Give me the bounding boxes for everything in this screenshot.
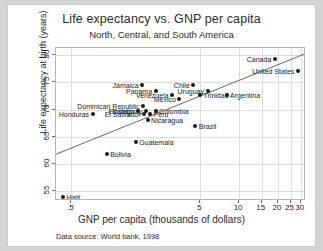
y-tick-mark bbox=[52, 54, 55, 55]
point-label: Canada bbox=[247, 55, 272, 62]
point-label: United States bbox=[252, 68, 294, 75]
plot-area: HaitiBoliviaGuatemalaHondurasNicaraguaEl… bbox=[55, 47, 305, 200]
scatter-point bbox=[273, 57, 277, 61]
x-tick-label: 30 bbox=[295, 203, 304, 212]
point-label: Dominican Republic bbox=[77, 102, 139, 109]
x-tick-label: 5 bbox=[197, 203, 201, 212]
chart-subtitle: North, Central, and South America bbox=[8, 29, 315, 40]
point-label: Guatemala bbox=[139, 139, 173, 146]
scatter-point bbox=[141, 104, 145, 108]
x-tick-label: 25 bbox=[285, 203, 294, 212]
point-label: Brazil bbox=[199, 122, 217, 129]
y-tick-mark bbox=[52, 136, 55, 137]
scatter-point bbox=[61, 195, 65, 199]
y-tick-mark bbox=[52, 190, 55, 191]
x-tick-label: 20 bbox=[273, 203, 282, 212]
x-tick-label: 10 bbox=[234, 203, 243, 212]
y-tick-label: 55 bbox=[42, 186, 51, 195]
y-tick-mark bbox=[52, 109, 55, 110]
point-label: Haiti bbox=[66, 193, 80, 200]
y-tick-mark bbox=[52, 81, 55, 82]
data-source-note: Data source: World bank, 1998 bbox=[56, 232, 159, 241]
scatter-point bbox=[140, 83, 144, 87]
point-label: Mexico bbox=[154, 96, 176, 103]
scatter-point bbox=[146, 118, 150, 122]
scatter-point bbox=[154, 109, 158, 113]
y-tick-mark bbox=[52, 163, 55, 164]
point-label: Bolivia bbox=[110, 150, 131, 157]
y-tick-label: 60 bbox=[42, 159, 51, 168]
scatter-point bbox=[105, 152, 109, 156]
x-tick-label: .5 bbox=[67, 203, 74, 212]
scatter-point bbox=[134, 140, 138, 144]
chart-title: Life expectancy vs. GNP per capita bbox=[8, 12, 315, 26]
x-axis-title: GNP per capita (thousands of dollars) bbox=[8, 214, 315, 225]
chart-figure: Life expectancy vs. GNP per capita North… bbox=[8, 5, 315, 246]
y-axis-title: Life expectancy at birth (years) bbox=[38, 0, 48, 152]
point-label: Colombia bbox=[159, 107, 189, 114]
scatter-point bbox=[191, 83, 195, 87]
scatter-point bbox=[144, 109, 148, 113]
x-tick-label: 15 bbox=[256, 203, 265, 212]
point-label: Argentina bbox=[230, 92, 260, 99]
point-label: Honduras bbox=[59, 111, 89, 118]
